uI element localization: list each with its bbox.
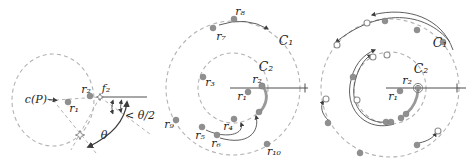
target-position-marker — [334, 42, 340, 48]
label-angle-bound: < θ/2 — [125, 109, 155, 122]
label-c1: C₁ — [279, 33, 294, 48]
c2-rotation-arrow-inner — [354, 55, 392, 122]
figure-svg: c(P) r₁ r₂ f₂ θ < θ/2 r₁ r₂ r₃ r₄ r₅ r₆ … — [0, 0, 468, 166]
target-position-marker — [370, 54, 376, 60]
target-position-marker — [364, 20, 370, 26]
point-r7 — [210, 25, 216, 31]
r7-movement-arrow — [219, 21, 268, 29]
figure-canvas: c(P) r₁ r₂ f₂ θ < θ/2 r₁ r₂ r₃ r₄ r₅ r₆ … — [0, 0, 468, 166]
robot-dot — [350, 74, 356, 80]
point-r1 — [397, 88, 403, 94]
label-r10: r₁₀ — [267, 145, 282, 158]
label-r8: r₈ — [235, 5, 245, 18]
label-c2: C₂ — [259, 59, 274, 74]
label-r9: r₉ — [164, 118, 174, 131]
label-r1: r₁ — [69, 102, 79, 115]
target-position-marker — [354, 97, 360, 103]
panel-right: r₁ r₂ C₁ C₂ — [321, 12, 466, 157]
trace-end-dot — [256, 109, 262, 115]
target-position-marker — [323, 96, 329, 102]
label-r2: r₂ — [81, 83, 91, 96]
trace-end-dot — [403, 111, 409, 117]
label-r2: r₂ — [252, 73, 262, 86]
panel-left: c(P) r₁ r₂ f₂ θ < θ/2 — [12, 54, 155, 153]
robot-dot — [414, 142, 420, 148]
label-r4: r₄ — [223, 120, 233, 133]
label-r1: r₁ — [237, 90, 247, 103]
candidate-point-star-marker — [75, 130, 84, 139]
robot-dot — [398, 115, 404, 121]
robot-dot — [388, 119, 394, 125]
robot-dot — [382, 18, 388, 24]
label-r7: r₇ — [216, 30, 226, 43]
label-r6: r₆ — [211, 137, 221, 150]
r2-movement-trace — [407, 90, 418, 113]
label-r1: r₁ — [388, 90, 398, 103]
c1-left-movement-arrow — [322, 101, 329, 121]
target-position-marker — [384, 52, 390, 58]
label-center: c(P) — [25, 93, 47, 106]
half-theta-arrow-2 — [121, 101, 122, 113]
center-pointer-arrow — [48, 99, 57, 100]
label-c2: C₂ — [414, 61, 429, 76]
label-r2: r₂ — [402, 74, 412, 87]
robot-dot — [357, 150, 363, 156]
label-f2: f₂ — [101, 82, 110, 95]
label-c1: C₁ — [433, 35, 448, 50]
panel-middle: r₁ r₂ r₃ r₄ r₅ r₆ r₇ r₈ r₉ r₁₀ C₁ C₂ — [164, 5, 308, 158]
label-r5: r₅ — [195, 129, 205, 142]
label-theta: θ — [101, 129, 108, 142]
point-r9 — [173, 117, 179, 123]
label-r3: r₃ — [205, 76, 215, 89]
target-position-marker — [435, 128, 441, 134]
robot-dot — [325, 120, 331, 126]
robot-dot — [414, 27, 420, 33]
r2-movement-trace — [260, 86, 266, 112]
